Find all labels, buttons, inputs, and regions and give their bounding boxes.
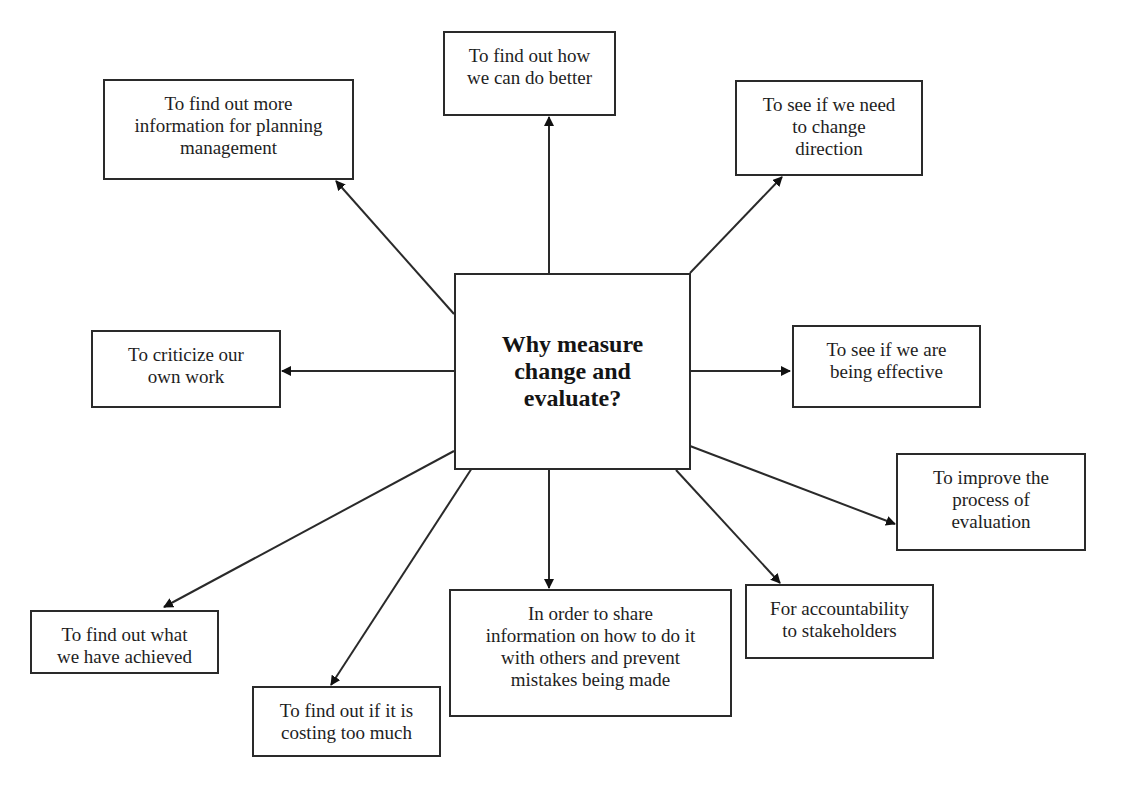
central-question-node: Why measure change and evaluate? (454, 273, 691, 470)
node-achieved: To find out what we have achieved (30, 610, 219, 674)
node-better: To find out how we can do better (443, 31, 616, 116)
node-accountability-text: For accountability to stakeholders (770, 598, 909, 642)
central-question-text: Why measure change and evaluate? (502, 331, 644, 412)
node-direction-text: To see if we need to change direction (763, 94, 896, 160)
node-better-text: To find out how we can do better (467, 45, 592, 89)
arrow-to-achieved (164, 451, 454, 607)
node-share: In order to share information on how to … (449, 589, 732, 717)
node-improve-text: To improve the process of evaluation (933, 467, 1049, 533)
node-accountability: For accountability to stakeholders (745, 584, 934, 659)
node-criticize: To criticize our own work (91, 330, 281, 408)
node-direction: To see if we need to change direction (735, 80, 923, 176)
node-planning-text: To find out more information for plannin… (135, 93, 323, 159)
node-achieved-text: To find out what we have achieved (57, 624, 192, 668)
node-effective-text: To see if we are being effective (827, 339, 947, 383)
node-criticize-text: To criticize our own work (128, 344, 244, 388)
arrow-to-accountability (676, 470, 780, 583)
node-effective: To see if we are being effective (792, 325, 981, 408)
node-share-text: In order to share information on how to … (486, 603, 696, 691)
node-costing: To find out if it is costing too much (252, 686, 441, 757)
node-improve: To improve the process of evaluation (896, 453, 1086, 551)
arrow-to-improve (690, 446, 895, 524)
mind-map-diagram: Why measure change and evaluate? To find… (0, 0, 1121, 801)
node-costing-text: To find out if it is costing too much (280, 700, 413, 744)
arrow-to-planning (336, 181, 454, 314)
node-planning: To find out more information for plannin… (103, 79, 354, 180)
arrow-to-direction (690, 177, 782, 273)
